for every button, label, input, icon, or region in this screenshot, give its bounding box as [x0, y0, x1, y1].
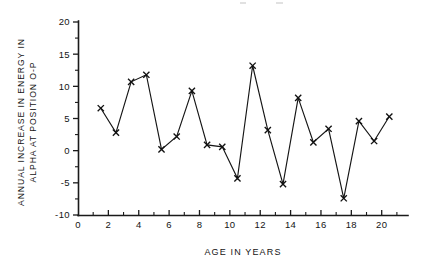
x-tick-label: 16: [315, 219, 326, 230]
y-tick-label: 15: [59, 49, 70, 60]
data-point-marker: [128, 79, 134, 85]
x-tick-label: 0: [75, 219, 81, 230]
data-point-markers: [98, 63, 393, 202]
y-axis-title-line1: ANNUAL INCREASE IN ENERGY IN: [16, 38, 26, 206]
data-point-marker: [98, 105, 104, 111]
x-axis-tick-labels: 02468101214161820: [75, 219, 387, 230]
y-axis-ticks: [73, 22, 78, 215]
y-tick-label: 0: [64, 145, 70, 156]
x-axis-title: AGE IN YEARS: [204, 247, 281, 257]
y-tick-label: 20: [59, 16, 70, 27]
y-axis-title: ANNUAL INCREASE IN ENERGY IN ALPHA AT PO…: [16, 38, 38, 206]
x-tick-label: 4: [136, 219, 142, 230]
x-tick-label: 2: [106, 219, 112, 230]
y-tick-label: 5: [64, 113, 70, 124]
y-axis-title-line2: ALPHA AT POSITION O-P: [28, 62, 38, 183]
data-point-marker: [189, 88, 195, 94]
x-tick-label: 8: [197, 219, 203, 230]
data-point-marker: [310, 139, 316, 145]
x-tick-label: 12: [255, 219, 266, 230]
chart-axes: [78, 21, 408, 216]
y-tick-label: 10: [59, 81, 70, 92]
x-axis-ticks: [93, 210, 397, 215]
data-point-marker: [113, 130, 119, 136]
chart-figure: ANNUAL INCREASE IN ENERGY IN ALPHA AT PO…: [0, 0, 426, 260]
x-tick-label: 10: [224, 219, 235, 230]
y-axis-tick-labels: -10-505101520: [55, 16, 70, 220]
data-point-marker: [174, 133, 180, 139]
y-tick-label: -5: [61, 177, 70, 188]
x-tick-label: 18: [346, 219, 357, 230]
data-point-marker: [386, 113, 392, 119]
data-series-line: [101, 66, 390, 199]
line-chart: ANNUAL INCREASE IN ENERGY IN ALPHA AT PO…: [0, 0, 426, 260]
y-tick-label: -10: [55, 209, 70, 220]
data-point-marker: [371, 138, 377, 144]
x-tick-label: 20: [376, 219, 387, 230]
x-tick-label: 14: [285, 219, 296, 230]
x-tick-label: 6: [166, 219, 172, 230]
